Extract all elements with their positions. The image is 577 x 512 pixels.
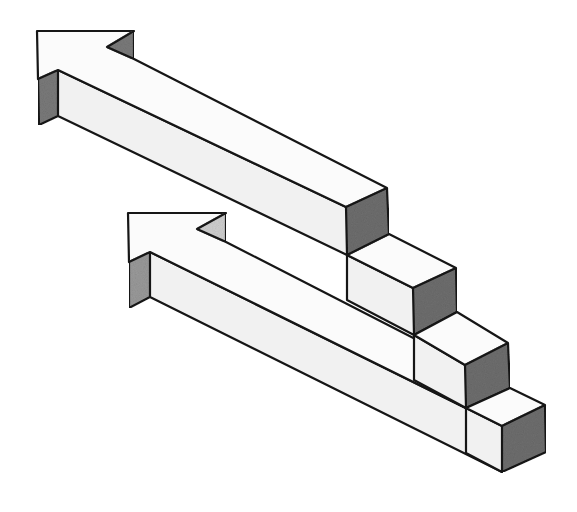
- illustration: Impossible arrows staircase: [0, 0, 577, 512]
- upper-arrow-left-shade: [38, 70, 58, 125]
- lower-arrow-left-shade: [129, 252, 150, 308]
- impossible-arrows-drawing: [0, 0, 577, 512]
